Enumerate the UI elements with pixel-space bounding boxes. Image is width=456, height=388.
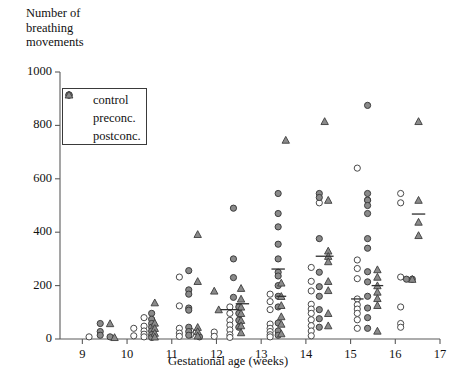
data-point-preconc [364,315,370,321]
data-point-preconc [149,310,155,316]
data-point-postconc [415,218,422,225]
data-point-postconc [194,231,201,238]
data-point-control [176,274,182,280]
data-point-preconc [275,224,281,230]
data-point-postconc [106,320,113,327]
data-point-control [398,190,404,196]
data-point-control [86,334,92,340]
data-point-preconc [186,268,192,274]
data-point-preconc [275,241,281,247]
data-point-postconc [211,287,218,294]
data-point-postconc [194,278,201,285]
data-point-preconc [186,307,192,313]
data-point-preconc [275,256,281,262]
data-point-preconc [364,245,370,251]
data-point-control [267,334,273,340]
data-point-control [211,333,217,339]
data-point-control [398,324,404,330]
legend-label: control [89,93,128,108]
data-point-control [308,264,314,270]
chart-legend: controlpreconc.postconc. [62,88,147,145]
data-point-postconc [325,196,332,203]
data-point-control [131,333,137,339]
data-point-control [176,333,182,339]
data-point-preconc [364,190,370,196]
data-point-postconc [374,327,381,334]
data-point-postconc [374,273,381,280]
legend-label: preconc. [89,111,136,126]
data-point-control [141,315,147,321]
data-point-preconc [316,284,322,290]
data-point-preconc [97,332,103,338]
data-point-control [308,288,314,294]
data-point-preconc [364,325,370,331]
data-point-postconc [374,302,381,309]
data-point-control [354,165,360,171]
data-point-control [267,299,273,305]
data-point-control [227,310,233,316]
data-point-preconc [316,316,322,322]
data-point-control [354,276,360,282]
data-point-control [354,325,360,331]
data-point-postconc [282,136,289,143]
data-point-postconc [374,266,381,273]
data-point-preconc [230,205,236,211]
data-point-preconc [316,269,322,275]
data-point-control [398,274,404,280]
data-point-postconc [278,313,285,320]
data-point-preconc [364,210,370,216]
data-point-control [176,303,182,309]
data-point-preconc [316,307,322,313]
legend-label: postconc. [89,129,141,144]
data-point-preconc [316,293,322,299]
data-point-preconc [186,332,192,338]
data-point-preconc [230,274,236,280]
data-point-postconc [415,232,422,239]
data-point-preconc [316,324,322,330]
data-point-preconc [316,236,322,242]
data-point-preconc [230,294,236,300]
data-point-preconc [186,291,192,297]
data-point-postconc [237,285,244,292]
data-point-postconc [325,278,332,285]
data-point-postconc [415,118,422,125]
data-point-control [398,200,404,206]
data-point-control [354,310,360,316]
data-point-preconc [364,236,370,242]
data-point-control [308,278,314,284]
data-point-preconc [230,256,236,262]
data-point-preconc [316,194,322,200]
data-point-control [354,257,360,263]
data-point-control [227,334,233,340]
data-point-control [354,265,360,271]
data-point-postconc [374,295,381,302]
data-point-control [354,317,360,323]
data-point-control [308,310,314,316]
data-point-preconc [364,279,370,285]
data-point-preconc [275,210,281,216]
data-point-control [141,334,147,340]
data-point-control [267,307,273,313]
data-point-postconc [325,287,332,294]
data-point-postconc [151,299,158,306]
data-point-preconc [275,190,281,196]
data-point-postconc [321,118,328,125]
scatter-plot-figure: Number of breathing movements Gestationa… [0,0,456,388]
data-point-preconc [275,273,281,279]
data-point-postconc [237,295,244,302]
data-point-control [267,291,273,297]
data-point-postconc [415,196,422,203]
data-point-control [308,317,314,323]
data-point-control [308,333,314,339]
data-point-postconc [325,310,332,317]
data-point-preconc [364,102,370,108]
data-point-preconc [364,305,370,311]
legend-item-control: control [63,91,146,109]
data-point-preconc [364,269,370,275]
legend-item-postconc: postconc. [63,127,146,145]
data-point-control [398,304,404,310]
data-point-preconc [364,293,370,299]
data-point-control [131,325,137,331]
plot-area [0,0,456,388]
data-point-postconc [325,322,332,329]
